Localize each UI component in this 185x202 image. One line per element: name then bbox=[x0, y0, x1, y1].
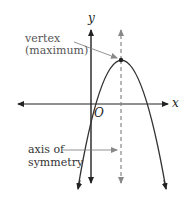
axis-label-line2: symmetry bbox=[28, 157, 83, 169]
diagram-canvas bbox=[0, 0, 185, 202]
vertex-label-line2: (maximum) bbox=[25, 45, 88, 57]
parabola-diagram: y x O vertex (maximum) axis of symmetry bbox=[0, 0, 185, 202]
y-axis-label: y bbox=[88, 12, 95, 24]
axis-label-line1: axis of bbox=[28, 144, 64, 156]
origin-label: O bbox=[94, 107, 104, 119]
x-axis-label: x bbox=[172, 97, 179, 109]
vertex-point bbox=[119, 58, 123, 62]
